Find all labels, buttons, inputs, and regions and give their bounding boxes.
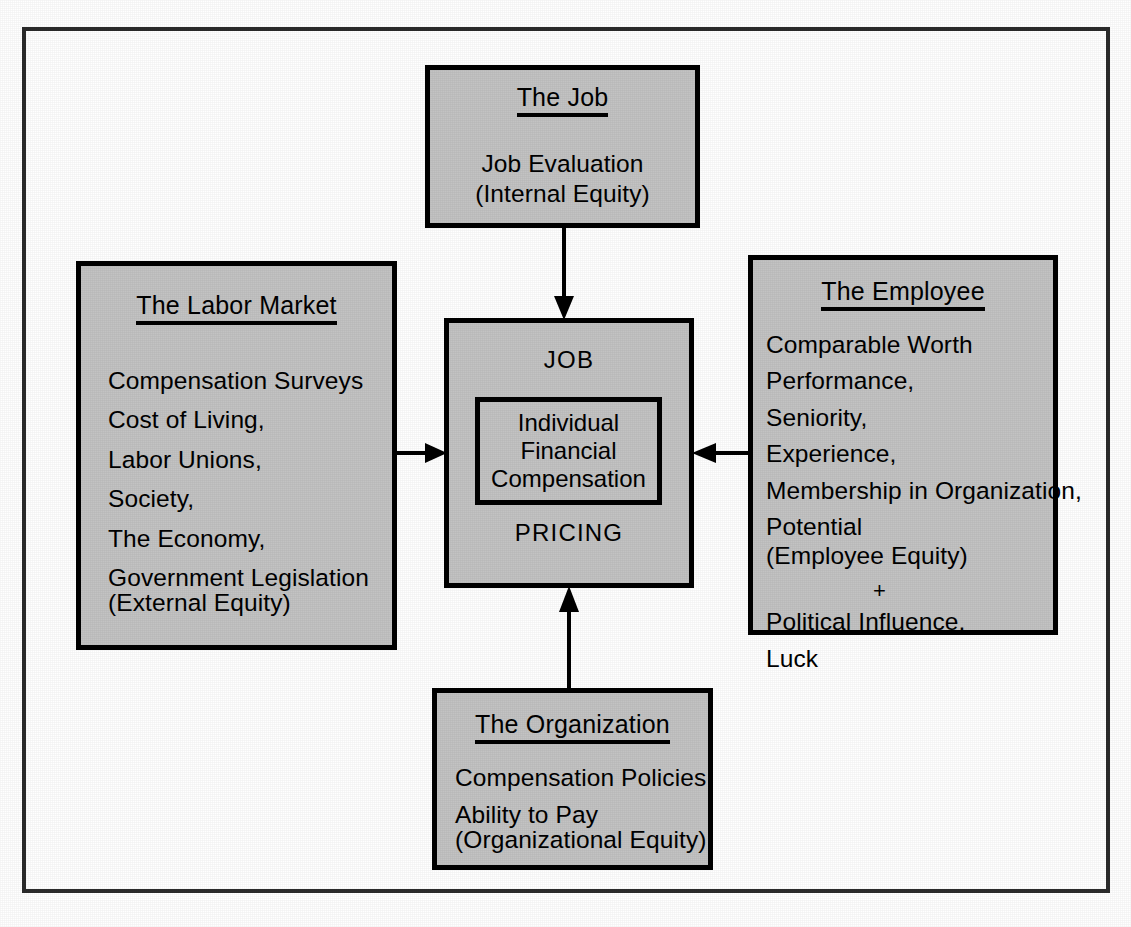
node-the-employee-plus-symbol: + <box>766 580 1053 602</box>
node-the-organization-line-3: (Organizational Equity) <box>455 828 708 853</box>
job-pricing-top-label: JOB <box>449 346 689 374</box>
node-the-employee-body: Comparable Worth Performance, Seniority,… <box>753 333 1053 672</box>
individual-financial-compensation-line-1: Individual <box>518 409 619 437</box>
connector-organization-to-center <box>557 584 581 692</box>
node-the-job-title: The Job <box>517 84 609 117</box>
node-the-job-line-1: Job Evaluation <box>430 149 695 180</box>
node-the-employee-line-7: (Employee Equity) <box>766 544 1053 569</box>
node-the-organization-body: Compensation Policies Ability to Pay (Or… <box>437 766 708 853</box>
node-the-organization: The Organization Compensation Policies A… <box>432 688 713 870</box>
node-the-employee-line-2: Performance, <box>766 369 1053 394</box>
node-the-labor-market-line-3: Labor Unions, <box>108 448 392 473</box>
node-the-employee-line-10: Luck <box>766 647 1053 672</box>
node-the-labor-market-line-4: Society, <box>108 487 392 512</box>
node-the-employee-line-9: Political Influence, <box>766 610 1053 635</box>
node-the-organization-line-1: Compensation Policies <box>455 766 708 791</box>
job-pricing-bottom-label: PRICING <box>449 519 689 547</box>
node-the-labor-market-body: Compensation Surveys Cost of Living, Lab… <box>81 369 392 616</box>
compensation-determinants-diagram: The Job Job Evaluation (Internal Equity)… <box>0 0 1131 927</box>
node-the-job: The Job Job Evaluation (Internal Equity) <box>425 65 700 228</box>
node-the-employee-line-1: Comparable Worth <box>766 333 1053 358</box>
individual-financial-compensation-line-3: Compensation <box>491 465 646 493</box>
node-the-labor-market: The Labor Market Compensation Surveys Co… <box>76 261 397 650</box>
node-the-employee: The Employee Comparable Worth Performanc… <box>748 255 1058 635</box>
individual-financial-compensation-line-2: Financial <box>520 437 616 465</box>
node-the-job-line-2: (Internal Equity) <box>430 179 695 210</box>
connector-employee-to-center <box>690 440 752 466</box>
node-the-employee-line-4: Experience, <box>766 442 1053 467</box>
node-the-organization-line-2: Ability to Pay <box>455 803 708 828</box>
node-the-employee-line-3: Seniority, <box>766 406 1053 431</box>
node-the-labor-market-line-1: Compensation Surveys <box>108 369 392 394</box>
node-the-employee-line-6: Potential <box>766 515 1053 540</box>
node-individual-financial-compensation: Individual Financial Compensation <box>475 397 662 505</box>
node-the-employee-title: The Employee <box>821 278 985 311</box>
connector-job-to-center <box>552 226 576 322</box>
node-the-job-body: Job Evaluation (Internal Equity) <box>430 149 695 210</box>
node-the-labor-market-title: The Labor Market <box>136 292 337 325</box>
connector-labor-market-to-center <box>395 440 449 466</box>
node-job-pricing: JOB Individual Financial Compensation PR… <box>444 318 694 588</box>
node-the-organization-title: The Organization <box>475 711 670 744</box>
node-the-labor-market-line-6: Government Legislation <box>108 566 392 591</box>
node-the-labor-market-line-7: (External Equity) <box>108 591 392 616</box>
node-the-labor-market-line-5: The Economy, <box>108 527 392 552</box>
node-the-labor-market-line-2: Cost of Living, <box>108 408 392 433</box>
node-the-employee-line-5: Membership in Organization, <box>766 479 1053 504</box>
